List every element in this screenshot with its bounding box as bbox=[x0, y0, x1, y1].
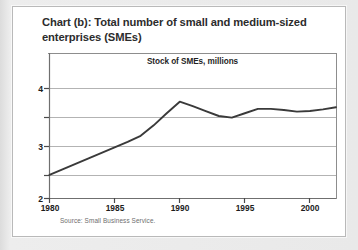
x-tick-label-1995: 1995 bbox=[225, 203, 265, 213]
chart-panel: Chart (b): Total number of small and med… bbox=[12, 6, 346, 237]
data-series-line bbox=[50, 102, 337, 175]
y-tick-label-4: 4 bbox=[27, 84, 43, 94]
x-tick-label-1980: 1980 bbox=[30, 203, 70, 213]
axis-lines bbox=[49, 53, 336, 199]
x-tick-label-2000: 2000 bbox=[290, 203, 330, 213]
gridlines bbox=[49, 89, 336, 176]
x-tick-label-1985: 1985 bbox=[95, 203, 135, 213]
x-tick-label-1990: 1990 bbox=[160, 203, 200, 213]
figure-root: Chart (b): Total number of small and med… bbox=[0, 0, 358, 250]
y-tick-label-3: 3 bbox=[27, 142, 43, 152]
source-note: Source: Small Business Service. bbox=[60, 217, 155, 224]
y-axis-ticks bbox=[44, 89, 49, 199]
